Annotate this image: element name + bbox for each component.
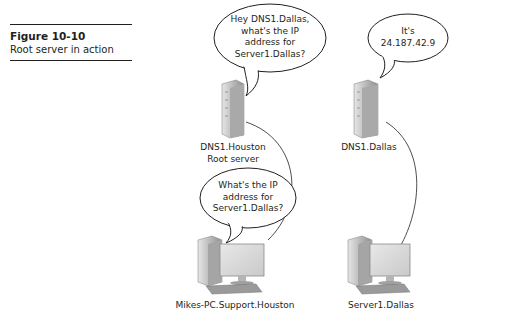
server-tower-icon: [222, 80, 244, 138]
server-tower-icon: [354, 80, 378, 138]
bubble-text-houston: Hey DNS1.Dallas, what's the IP address f…: [214, 14, 326, 60]
node-label-dns-houston: DNS1.Houston Root server: [188, 141, 278, 165]
desktop-computer-icon: [198, 236, 264, 294]
node-label-server-dallas: Server1.Dallas: [336, 299, 426, 311]
node-label-dns-dallas: DNS1.Dallas: [326, 141, 412, 153]
desktop-computer-icon: [348, 236, 410, 294]
bubble-text-pc: What's the IP address for Server1.Dallas…: [200, 180, 296, 215]
node-label-mikes-pc: Mikes-PC.Support.Houston: [160, 299, 310, 311]
bubble-text-dallas: It's 24.187.42.9: [368, 26, 448, 49]
